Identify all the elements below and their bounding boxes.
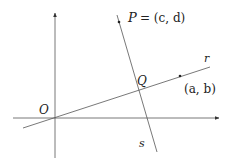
point-ab-marker (179, 75, 182, 78)
label-q: Q (137, 74, 147, 88)
label-p-coords: = (c, d) (140, 11, 185, 25)
label-ab: (a, b) (184, 82, 216, 96)
label-s: s (139, 137, 145, 150)
label-r: r (204, 52, 210, 65)
point-p-marker (118, 21, 121, 24)
label-o: O (39, 103, 49, 117)
coordinate-diagram: P = (c, d) r (a, b) Q O s (0, 0, 229, 167)
line-r (23, 67, 210, 128)
label-p: P (127, 10, 137, 25)
